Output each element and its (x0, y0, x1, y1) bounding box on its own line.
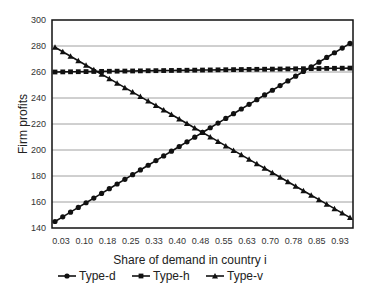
triangle-marker (168, 112, 174, 118)
square-marker (301, 66, 306, 71)
y-tick-label: 180 (31, 171, 46, 181)
y-tick-label: 300 (31, 15, 46, 25)
square-marker (154, 68, 159, 73)
square-marker (192, 68, 197, 73)
x-tick-label: 0.25 (122, 236, 140, 246)
triangle-marker (277, 174, 283, 180)
square-marker (68, 69, 73, 74)
circle-marker (184, 139, 189, 144)
square-marker (60, 69, 65, 74)
square-marker (223, 67, 228, 72)
triangle-marker (207, 134, 213, 140)
square-marker (84, 69, 89, 74)
square-marker (293, 66, 298, 71)
triangle-marker (293, 183, 299, 189)
y-axis-title: Firm profits (16, 94, 30, 154)
triangle-marker (223, 143, 229, 149)
circle-marker (52, 219, 57, 224)
circle-marker (192, 135, 197, 140)
triangle-marker (68, 53, 74, 59)
circle-marker (285, 78, 290, 83)
circle-marker (138, 167, 143, 172)
circle-marker (262, 92, 267, 97)
circle-marker (169, 149, 174, 154)
square-marker (177, 68, 182, 73)
triangle-marker (145, 98, 151, 104)
triangle-marker (52, 44, 58, 50)
x-tick-label: 0.93 (331, 236, 349, 246)
square-marker (270, 67, 275, 72)
square-marker (53, 70, 58, 75)
circle-marker (246, 102, 251, 107)
square-marker (309, 66, 314, 71)
circle-marker (254, 97, 259, 102)
circle-marker (153, 158, 158, 163)
triangle-marker (130, 89, 136, 95)
square-marker (76, 69, 81, 74)
triangle-marker (153, 103, 159, 109)
triangle-marker (184, 120, 190, 126)
circle-marker (332, 50, 337, 55)
y-tick-label: 160 (31, 197, 46, 207)
triangle-marker (285, 179, 291, 185)
square-marker (185, 68, 190, 73)
circle-marker (122, 177, 127, 182)
square-marker (278, 67, 283, 72)
triangle-marker (137, 94, 143, 100)
x-axis-title: Share of demand in country i (113, 253, 266, 267)
circle-marker (239, 106, 244, 111)
circle-marker (215, 120, 220, 125)
square-marker (239, 67, 244, 72)
circle-marker (146, 163, 151, 168)
square-marker (340, 66, 345, 71)
circle-marker (161, 153, 166, 158)
square-marker (146, 68, 151, 73)
square-marker (130, 69, 135, 74)
square-marker (115, 69, 120, 74)
x-tick-label: 0.48 (192, 236, 210, 246)
square-marker (348, 66, 353, 71)
triangle-marker (254, 161, 260, 167)
circle-marker (91, 195, 96, 200)
y-tick-label: 280 (31, 41, 46, 51)
circle-marker (223, 116, 228, 121)
triangle-marker (176, 116, 182, 122)
circle-marker (115, 181, 120, 186)
circle-marker (293, 74, 298, 79)
x-tick-label: 0.33 (145, 236, 163, 246)
square-marker (208, 68, 213, 73)
square-marker (122, 69, 127, 74)
square-marker (324, 66, 329, 71)
square-marker (285, 67, 290, 72)
y-tick-label: 260 (31, 67, 46, 77)
square-marker (262, 67, 267, 72)
circle-marker (76, 205, 81, 210)
square-marker (231, 67, 236, 72)
y-tick-label: 240 (31, 93, 46, 103)
triangle-marker (347, 215, 353, 221)
circle-marker (347, 41, 352, 46)
square-marker (200, 68, 205, 73)
line-chart: 1401601802002202402602803000.030.100.180… (0, 0, 375, 298)
triangle-marker (60, 49, 66, 55)
triangle-marker (83, 62, 89, 68)
triangle-marker (75, 58, 81, 64)
circle-marker (60, 214, 65, 219)
x-tick-label: 0.85 (308, 236, 326, 246)
circle-marker (130, 172, 135, 177)
circle-marker (231, 111, 236, 116)
y-tick-label: 200 (31, 145, 46, 155)
circle-marker (83, 200, 88, 205)
circle-marker (208, 125, 213, 130)
triangle-marker (192, 125, 198, 130)
x-tick-label: 0.18 (99, 236, 117, 246)
x-tick-label: 0.40 (168, 236, 186, 246)
circle-marker (278, 83, 283, 88)
triangle-marker (122, 85, 128, 91)
triangle-marker (114, 80, 120, 86)
triangle-marker (161, 107, 167, 113)
circle-marker (316, 60, 321, 65)
square-marker (254, 67, 259, 72)
x-tick-label: 0.10 (75, 236, 93, 246)
triangle-marker (215, 138, 221, 144)
